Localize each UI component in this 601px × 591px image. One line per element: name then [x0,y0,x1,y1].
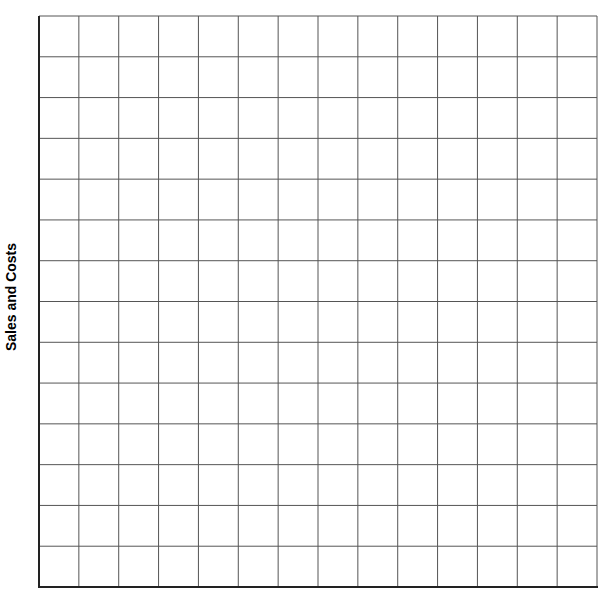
y-axis-label: Sales and Costs [3,243,19,351]
chart-area: Sales and Costs [0,0,601,591]
grid [0,0,601,591]
